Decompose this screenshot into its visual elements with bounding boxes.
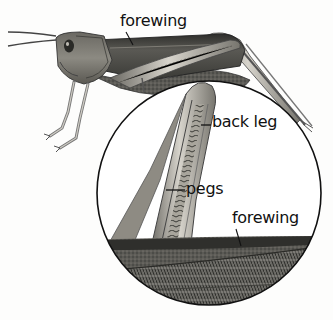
- antennae: [8, 32, 56, 46]
- magnifier-circle: [90, 81, 325, 320]
- label-pegs: pegs: [186, 181, 223, 197]
- grasshopper-diagram: forewing back leg pegs forewing: [0, 0, 333, 320]
- label-forewing-bottom: forewing: [232, 210, 299, 226]
- label-forewing-top: forewing: [120, 13, 187, 29]
- illustration: [0, 0, 333, 320]
- label-back-leg: back leg: [212, 114, 277, 130]
